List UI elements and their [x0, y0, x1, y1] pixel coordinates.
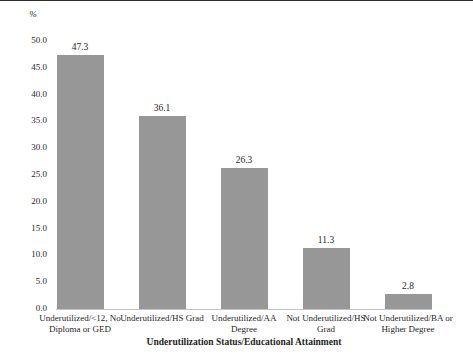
category-label-line: Underutilized/HS Grad	[117, 313, 207, 324]
category-label-line: Not Underutilized/BA or	[363, 313, 453, 324]
y-tick-label: 20.0	[0, 196, 47, 207]
bar	[385, 294, 432, 309]
bar-value-label: 36.1	[132, 103, 192, 114]
x-axis-line	[56, 309, 432, 310]
y-axis-unit-label: %	[22, 9, 44, 19]
y-tick-label: 30.0	[0, 142, 47, 153]
category-label-line: Grad	[281, 324, 371, 335]
y-tick-label: 5.0	[0, 276, 47, 287]
category-label-line: Underutilized/AA	[199, 313, 289, 324]
bar-value-label: 26.3	[214, 155, 274, 166]
bar-value-label: 11.3	[296, 235, 356, 246]
category-label: Underutilized/<12, NoDiploma or GED	[35, 313, 125, 334]
y-tick-label: 25.0	[0, 169, 47, 180]
category-label-line: Diploma or GED	[35, 324, 125, 335]
x-axis-title: Underutilization Status/Educational Atta…	[39, 337, 449, 347]
category-label: Not Underutilized/BA orHigher Degree	[363, 313, 453, 334]
bar	[57, 55, 104, 309]
bar	[221, 168, 268, 309]
bar	[303, 248, 350, 309]
y-tick-label: 15.0	[0, 223, 47, 234]
category-label: Underutilized/HS Grad	[117, 313, 207, 324]
bar-chart-figure: % 50.045.040.035.030.025.020.015.010.05.…	[0, 0, 473, 358]
category-label-line: Not Underutilized/HS	[281, 313, 371, 324]
category-label: Not Underutilized/HSGrad	[281, 313, 371, 334]
y-tick-label: 45.0	[0, 62, 47, 73]
category-label-line: Higher Degree	[363, 324, 453, 335]
category-label: Underutilized/AADegree	[199, 313, 289, 334]
bar-value-label: 2.8	[378, 281, 438, 292]
y-tick-label: 40.0	[0, 89, 47, 100]
bar-value-label: 47.3	[50, 42, 110, 53]
top-rule-divider	[0, 0, 473, 1]
y-tick-label: 35.0	[0, 115, 47, 126]
bar	[139, 116, 186, 309]
y-tick-label: 50.0	[0, 35, 47, 46]
y-tick-label: 10.0	[0, 249, 47, 260]
category-label-line: Degree	[199, 324, 289, 335]
category-label-line: Underutilized/<12, No	[35, 313, 125, 324]
